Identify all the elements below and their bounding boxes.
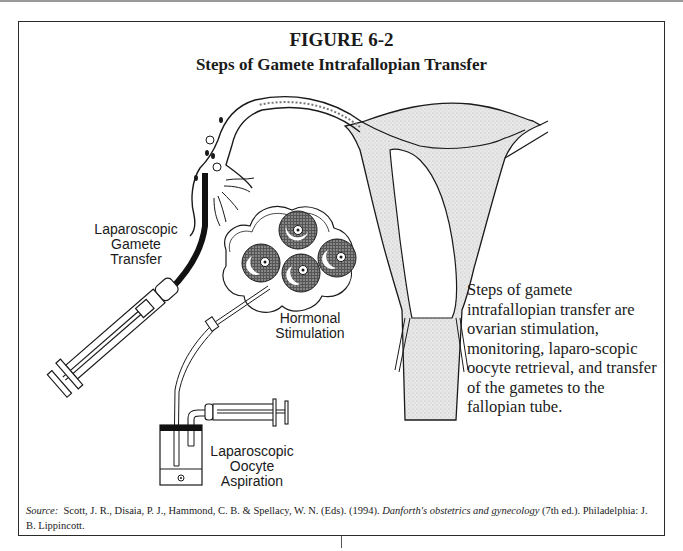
source-prefix: Source: <box>26 505 58 516</box>
follicle <box>242 244 280 282</box>
source-authors: Scott, J. R., Disaia, P. J., Hammond, C.… <box>64 505 380 516</box>
label-oocyte-aspiration: Laparoscopic Oocyte Aspiration <box>206 444 298 489</box>
ovary-follicles <box>223 207 356 313</box>
label-line: Oocyte <box>206 459 298 474</box>
aspiration-syringe <box>188 399 288 426</box>
label-line: Gamete <box>86 237 186 252</box>
label-line: Aspiration <box>206 474 298 489</box>
source-citation: Source: Scott, J. R., Disaia, P. J., Ham… <box>26 504 658 533</box>
label-line: Hormonal <box>265 311 355 326</box>
label-line: Laparoscopic <box>86 222 186 237</box>
label-line: Laparoscopic <box>206 444 298 459</box>
label-line: Transfer <box>86 252 186 267</box>
gift-illustration <box>0 0 683 551</box>
source-book-title: Danforth's obstetrics and gynecology <box>382 505 539 516</box>
transfer-syringe <box>45 270 185 398</box>
label-gamete-transfer: Laparoscopic Gamete Transfer <box>86 222 186 267</box>
label-line: Stimulation <box>265 326 355 341</box>
follicle <box>318 239 356 277</box>
figure-caption: Steps of gamete intrafallopian transfer … <box>467 280 657 417</box>
follicle <box>279 211 317 249</box>
collection-vial <box>160 425 202 485</box>
page-tick-mark <box>341 536 342 548</box>
label-hormonal-stimulation: Hormonal Stimulation <box>265 311 355 341</box>
fimbriae <box>214 178 254 226</box>
follicle <box>282 254 320 292</box>
